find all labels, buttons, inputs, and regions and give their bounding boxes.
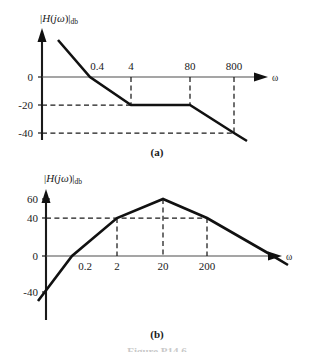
chart-panel-a: |H(jω)|db ω bbox=[0, 0, 314, 168]
chart-a-xtick-800: 800 bbox=[226, 60, 243, 72]
chart-a-ylabel-0: 0 bbox=[28, 71, 34, 83]
chart-b-xtick-2: 2 bbox=[114, 260, 120, 272]
chart-a-xlabel: ω bbox=[272, 73, 278, 83]
chart-b-xtick-200: 200 bbox=[199, 260, 216, 272]
chart-b-xtick-0p2: 0.2 bbox=[78, 260, 92, 272]
chart-a-y-axis bbox=[38, 28, 47, 140]
chart-a-ylabel: |H(jω)|db bbox=[40, 12, 78, 26]
bode-plot-figure: |H(jω)|db ω bbox=[0, 0, 314, 352]
chart-a-xtick-4: 4 bbox=[128, 60, 134, 72]
chart-a-xtick-0p4: 0.4 bbox=[90, 60, 104, 72]
chart-a-xtick-80: 80 bbox=[185, 60, 197, 72]
caption-b: (b) bbox=[0, 328, 314, 340]
chart-a-ylabel-minus20: -20 bbox=[18, 99, 33, 111]
caption-a: (a) bbox=[0, 146, 314, 158]
chart-b-ylabel-0: 0 bbox=[33, 250, 39, 262]
chart-b-xtick-20: 20 bbox=[158, 260, 170, 272]
chart-b-y-axis bbox=[42, 189, 51, 320]
chart-b-ylabel-60: 60 bbox=[27, 193, 39, 205]
chart-b-svg: |H(jω)|db ω bbox=[0, 170, 314, 352]
chart-a-svg: |H(jω)|db ω bbox=[0, 0, 314, 168]
chart-b-ylabel-minus40: -40 bbox=[23, 286, 38, 298]
figure-bottom-caption: Figure P14.6 bbox=[0, 346, 314, 352]
chart-b-xlabel: ω bbox=[286, 252, 292, 262]
chart-b-ylabel: |H(jω)|db bbox=[44, 172, 82, 186]
chart-a-curve bbox=[58, 40, 247, 141]
chart-b-ylabel-40: 40 bbox=[27, 212, 39, 224]
chart-a-ylabel-minus40: -40 bbox=[18, 127, 33, 139]
chart-panel-b: |H(jω)|db ω bbox=[0, 170, 314, 352]
